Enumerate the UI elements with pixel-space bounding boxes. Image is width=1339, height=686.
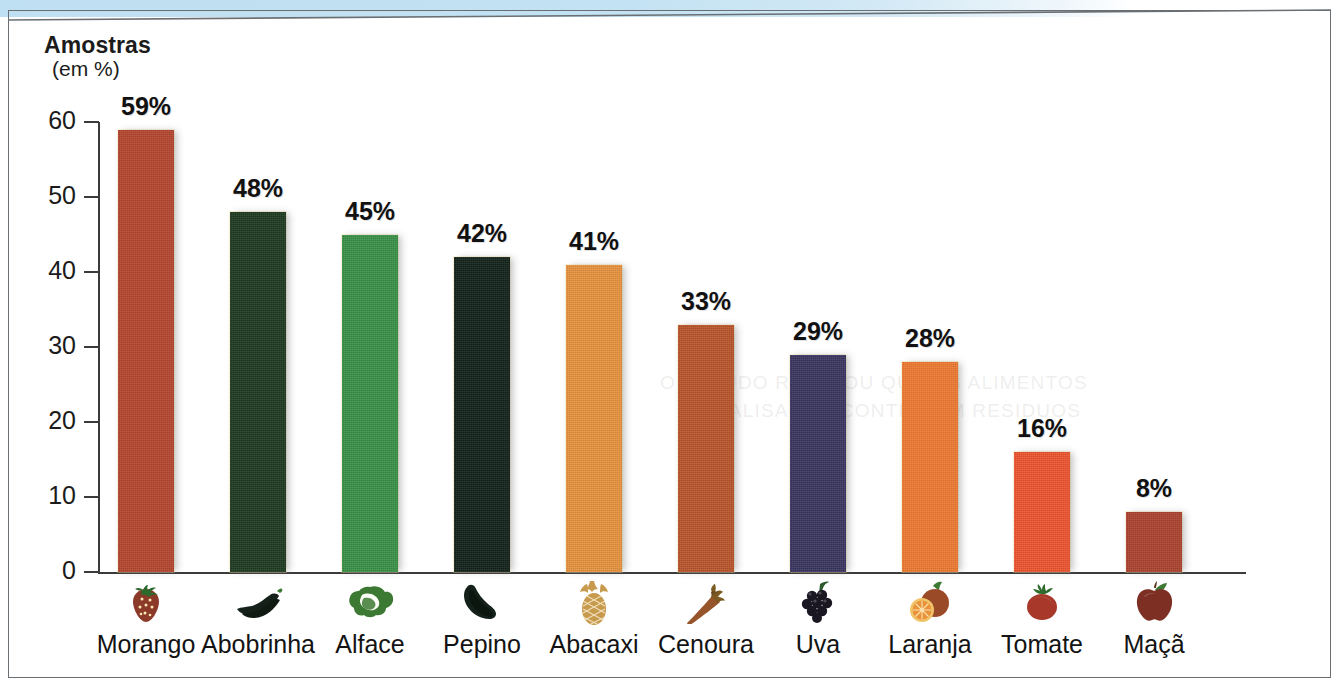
bar-group: 45% Alface xyxy=(342,0,398,686)
bar-value-label: 45% xyxy=(345,197,395,226)
bar-group: 16% Tomate xyxy=(1014,0,1070,686)
bar-value-label: 41% xyxy=(569,227,619,256)
bar-group: 28% Laranja xyxy=(902,0,958,686)
bar[interactable] xyxy=(1126,512,1182,572)
x-axis-category-label: Laranja xyxy=(888,630,971,659)
bar-group: 33% Cenoura xyxy=(678,0,734,686)
apple-icon xyxy=(1126,578,1182,626)
bar[interactable] xyxy=(118,130,174,573)
bar-value-label: 42% xyxy=(457,219,507,248)
x-axis-category-label: Abacaxi xyxy=(550,630,639,659)
bar-group: 8% Maçã xyxy=(1126,0,1182,686)
zucchini-icon xyxy=(230,578,286,626)
x-axis-category-label: Morango xyxy=(97,630,196,659)
bar[interactable] xyxy=(1014,452,1070,572)
bar[interactable] xyxy=(230,212,286,572)
lettuce-icon xyxy=(342,578,398,626)
plot-area: O ESTUDO REVELOU QUE OS ALIMENTOS ANALIS… xyxy=(0,0,1339,686)
bar[interactable] xyxy=(342,235,398,573)
pineapple-icon xyxy=(566,578,622,626)
x-axis-category-label: Pepino xyxy=(443,630,521,659)
chart-page: O ESTUDO REVELOU QUE OS ALIMENTOS ANALIS… xyxy=(0,0,1339,686)
bar[interactable] xyxy=(454,257,510,572)
bar-group: 41% Abacaxi xyxy=(566,0,622,686)
bar-value-label: 28% xyxy=(905,324,955,353)
bar-value-label: 59% xyxy=(121,92,171,121)
bar-value-label: 16% xyxy=(1017,414,1067,443)
carrot-icon xyxy=(678,578,734,626)
bar-value-label: 48% xyxy=(233,174,283,203)
x-axis-category-label: Abobrinha xyxy=(201,630,315,659)
x-axis-category-label: Alface xyxy=(335,630,404,659)
grapes-icon xyxy=(790,578,846,626)
bar[interactable] xyxy=(566,265,622,573)
x-axis-category-label: Uva xyxy=(796,630,840,659)
bar-group: 42% Pepino xyxy=(454,0,510,686)
bar-group: 29% Uva xyxy=(790,0,846,686)
bar[interactable] xyxy=(790,355,846,573)
bar-value-label: 33% xyxy=(681,287,731,316)
tomato-icon xyxy=(1014,578,1070,626)
x-axis-category-label: Maçã xyxy=(1123,630,1184,659)
cucumber-icon xyxy=(454,578,510,626)
x-axis-category-label: Tomate xyxy=(1001,630,1083,659)
strawberry-icon xyxy=(118,578,174,626)
bar-group: 59% Morango xyxy=(118,0,174,686)
bar[interactable] xyxy=(678,325,734,573)
orange-icon xyxy=(902,578,958,626)
bar-value-label: 29% xyxy=(793,317,843,346)
x-axis-category-label: Cenoura xyxy=(658,630,754,659)
bar-value-label: 8% xyxy=(1136,474,1172,503)
bar-group: 48% Abobrinha xyxy=(230,0,286,686)
bars-layer: 59% Morango48% Abobrinha45% Alface42% Pe… xyxy=(0,0,1339,686)
bar[interactable] xyxy=(902,362,958,572)
